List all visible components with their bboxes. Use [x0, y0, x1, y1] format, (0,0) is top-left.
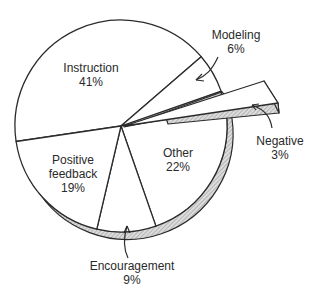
label-modeling-name: Modeling: [212, 28, 261, 42]
pie-chart: Instruction 41% Modeling 6% Negative 3% …: [0, 0, 316, 295]
label-modeling-pct: 6%: [227, 42, 245, 56]
pie-slices: [15, 20, 227, 232]
label-negative-name: Negative: [256, 134, 304, 148]
label-positive-line1: Positive: [52, 153, 94, 167]
label-instruction-pct: 41%: [79, 75, 103, 89]
label-other-pct: 22%: [166, 160, 190, 174]
label-positive-line2: feedback: [49, 167, 99, 181]
label-encouragement-name: Encouragement: [90, 259, 175, 273]
label-instruction-name: Instruction: [63, 61, 118, 75]
label-positive-pct: 19%: [61, 181, 85, 195]
label-negative-pct: 3%: [271, 148, 289, 162]
label-encouragement-pct: 9%: [123, 273, 141, 287]
label-other-name: Other: [163, 146, 193, 160]
